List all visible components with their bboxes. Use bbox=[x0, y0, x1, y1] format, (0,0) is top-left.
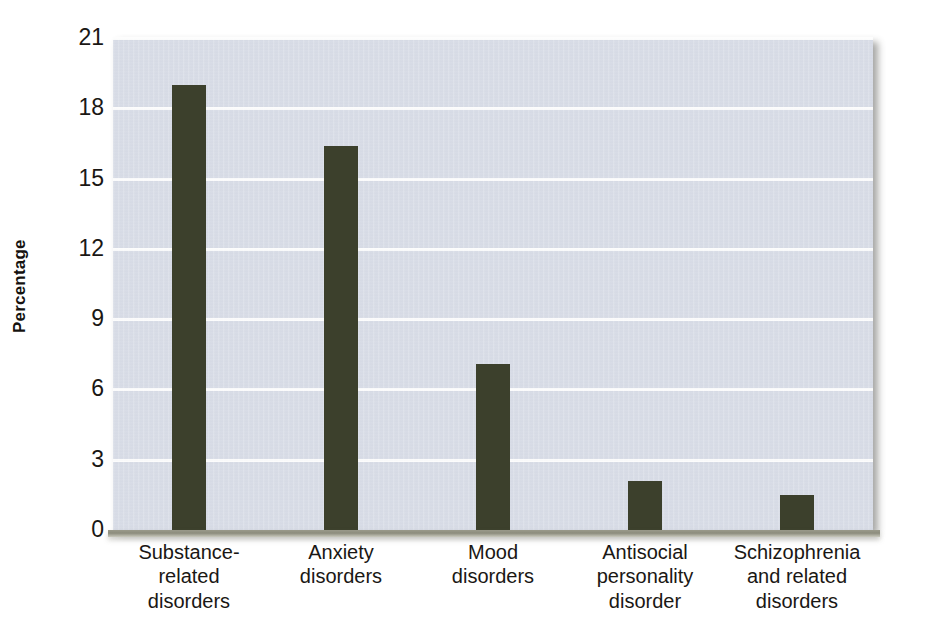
bar bbox=[324, 146, 358, 530]
bar bbox=[172, 85, 206, 530]
x-tick-label-line: disorder bbox=[569, 589, 721, 613]
y-tick-label: 12 bbox=[60, 237, 104, 260]
bar-chart-figure: Percentage 211815129630 Substance-relate… bbox=[0, 0, 935, 644]
x-tick-label-line: Substance- bbox=[113, 540, 265, 564]
bar bbox=[476, 364, 510, 530]
y-axis-tick-labels: 211815129630 bbox=[54, 0, 104, 644]
y-tick-label: 18 bbox=[60, 96, 104, 119]
y-tick-label: 9 bbox=[60, 307, 104, 330]
x-axis-category-labels: Substance-relateddisordersAnxietydisorde… bbox=[113, 540, 873, 640]
x-tick-label-line: Mood bbox=[417, 540, 569, 564]
gridline bbox=[113, 107, 873, 110]
x-tick-label: Antisocialpersonalitydisorder bbox=[569, 540, 721, 613]
y-tick-label: 15 bbox=[60, 167, 104, 190]
x-tick-label: Anxietydisorders bbox=[265, 540, 417, 589]
y-tick-label: 21 bbox=[60, 26, 104, 49]
x-tick-label-line: and related bbox=[721, 564, 873, 588]
x-tick-label-line: related bbox=[113, 564, 265, 588]
x-tick-label-line: disorders bbox=[417, 564, 569, 588]
gridline bbox=[113, 248, 873, 251]
x-tick-label-line: Schizophrenia bbox=[721, 540, 873, 564]
x-tick-label: Substance-relateddisorders bbox=[113, 540, 265, 613]
y-tick-label: 0 bbox=[60, 518, 104, 541]
plot-area bbox=[113, 38, 873, 530]
gridline bbox=[113, 178, 873, 181]
x-tick-label-line: disorders bbox=[265, 564, 417, 588]
gridline bbox=[113, 318, 873, 321]
x-tick-label-line: Antisocial bbox=[569, 540, 721, 564]
x-tick-label-line: Anxiety bbox=[265, 540, 417, 564]
bar bbox=[780, 495, 814, 530]
x-tick-label-line: disorders bbox=[721, 589, 873, 613]
x-tick-label: Schizophreniaand relateddisorders bbox=[721, 540, 873, 613]
gridline bbox=[113, 37, 873, 40]
x-tick-label: Mooddisorders bbox=[417, 540, 569, 589]
y-axis-title: Percentage bbox=[10, 55, 34, 215]
x-tick-label-line: personality bbox=[569, 564, 721, 588]
y-axis-title-text: Percentage bbox=[10, 173, 30, 333]
x-tick-label-line: disorders bbox=[113, 589, 265, 613]
y-tick-label: 6 bbox=[60, 377, 104, 400]
bar bbox=[628, 481, 662, 530]
x-axis-baseline bbox=[108, 530, 880, 537]
y-tick-label: 3 bbox=[60, 448, 104, 471]
